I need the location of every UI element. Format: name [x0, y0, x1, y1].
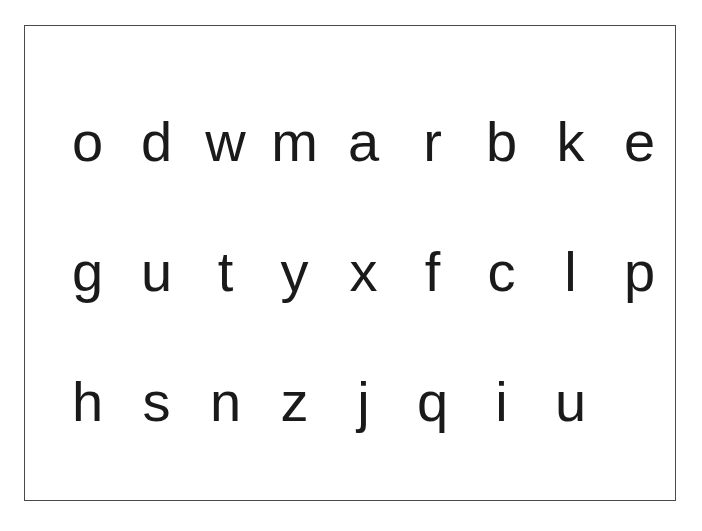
- letter-grid: o d w m a r b k e g u t y x f c l p: [25, 26, 675, 500]
- page-canvas: o d w m a r b k e g u t y x f c l p: [0, 0, 702, 531]
- letter-cell: k: [536, 112, 605, 172]
- letter-row-3: h s n z j q i u: [25, 372, 702, 432]
- letter-cell: t: [191, 242, 260, 302]
- letter-cell: s: [122, 372, 191, 432]
- letter-cell: c: [467, 242, 536, 302]
- letter-cell: y: [260, 242, 329, 302]
- letter-frame-border: o d w m a r b k e g u t y x f c l p: [24, 25, 676, 501]
- letter-cell: h: [53, 372, 122, 432]
- letter-cell: o: [53, 112, 122, 172]
- letter-cell: u: [122, 242, 191, 302]
- letter-cell: n: [191, 372, 260, 432]
- letter-cell: w: [191, 112, 260, 172]
- letter-cell: d: [122, 112, 191, 172]
- letter-cell: m: [260, 112, 329, 172]
- letter-cell: p: [605, 242, 674, 302]
- letter-cell: r: [398, 112, 467, 172]
- letter-cell: f: [398, 242, 467, 302]
- letter-row-1: o d w m a r b k e: [25, 112, 702, 172]
- letter-cell: l: [536, 242, 605, 302]
- letter-cell: b: [467, 112, 536, 172]
- letter-cell: z: [260, 372, 329, 432]
- letter-cell: g: [53, 242, 122, 302]
- letter-cell: q: [398, 372, 467, 432]
- letter-row-2: g u t y x f c l p: [25, 242, 702, 302]
- letter-cell: x: [329, 242, 398, 302]
- letter-cell: j: [329, 372, 398, 432]
- letter-cell: a: [329, 112, 398, 172]
- letter-cell: u: [536, 372, 605, 432]
- letter-cell: e: [605, 112, 674, 172]
- letter-cell: i: [467, 372, 536, 432]
